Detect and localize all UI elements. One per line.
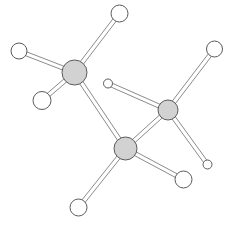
diagram-background xyxy=(0,0,230,226)
atom-B6 xyxy=(203,160,212,169)
molecular-structure-diagram xyxy=(0,0,230,226)
atom-B5 xyxy=(207,41,223,57)
atom-B1 xyxy=(111,5,128,22)
atom-B3 xyxy=(33,92,51,110)
atom-A1 xyxy=(62,60,87,85)
atom-B8 xyxy=(70,199,87,216)
atom-B2 xyxy=(11,43,27,59)
atom-A3 xyxy=(158,100,178,120)
atom-B7 xyxy=(175,171,192,188)
atom-B4 xyxy=(104,79,113,88)
atom-A2 xyxy=(114,137,137,160)
